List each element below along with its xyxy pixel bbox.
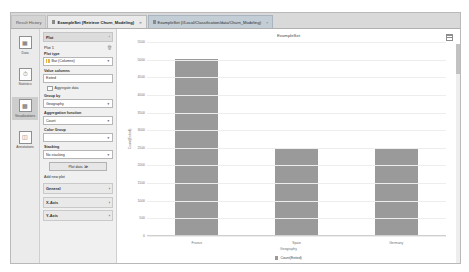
chevron-down-icon[interactable]: ▼ [107,136,110,140]
section-general[interactable]: General › [43,183,113,194]
aggregate-data-checkbox[interactable]: Aggregate data [47,86,113,92]
chevron-left-icon[interactable]: ‹ [109,35,110,39]
plot-section-header[interactable]: Plot ‹ [43,32,113,42]
chart-title: ExampleSet [117,33,460,38]
rail-label: Annotations [16,145,33,149]
y-axis-tick-label: 2000 [137,163,145,167]
chevron-down-icon[interactable]: ▼ [107,153,110,157]
trash-icon[interactable]: 🗑 [107,45,112,50]
bar-slot [147,42,247,236]
add-new-plot-link[interactable]: Add new plot [44,175,113,179]
y-axis-tick-label: 5000 [137,58,145,62]
table-icon [52,20,55,24]
tab-exampleset-retrieve[interactable]: ExampleSet (Retrieve Churn_Modeling) × [47,15,146,28]
tab-bar: Result History ExampleSet (Retrieve Chur… [11,13,460,29]
chart-panel: ExampleSet Count(Exited) 550050004500400… [117,29,460,264]
aggregation-function-select[interactable]: Count ▼ [43,116,113,125]
rail-label: Visualizations [15,114,35,118]
tab-label: ExampleSet (Retrieve Churn_Modeling) [57,20,134,25]
x-axis-tick-label: France [147,241,247,245]
aggregation-function-label: Aggregation function [44,111,113,115]
legend-swatch [275,256,278,259]
scrollbar-thumb[interactable] [456,44,460,74]
rail-label: Statistics [18,82,31,86]
section-label: X-Axis [46,200,58,205]
plot-area: Count(Exited) 55005000450040003500300025… [147,42,446,236]
gridline [147,60,446,61]
y-axis-tick-label: 500 [139,216,145,220]
gridline [147,236,446,237]
gridline [147,218,446,219]
plot-data-button[interactable]: Plot data ≫ [49,162,107,171]
aggregation-value: Count [46,119,56,123]
stacking-value: No stacking [46,153,65,157]
bar-spain[interactable] [275,149,318,236]
group-by-label: Group by [44,94,113,98]
gridline [147,42,446,43]
chevron-down-icon[interactable]: ▼ [107,119,110,123]
results-body: ▦ Data ⏱ Statistics ▩ Visualizations ◫ A… [11,29,460,264]
vertical-scrollbar[interactable] [456,44,460,264]
plot-name: Plot 1 [44,45,54,50]
x-axis-tick-label: Spain [247,241,347,245]
bars-layer [147,42,446,236]
gridline [147,95,446,96]
plot-type-select[interactable]: Bar (Columns) ▼ [43,57,113,66]
value-columns-value: Exited [46,76,56,80]
chevron-right-icon[interactable]: › [109,186,110,191]
legend-label: Count(Exited) [280,256,301,260]
chevron-right-icon[interactable]: › [109,200,110,205]
plot-section-title: Plot [46,35,53,40]
chevron-down-icon[interactable]: ▼ [107,59,110,63]
tab-exampleset-local[interactable]: ExampleSet (//Local/Classification/data/… [148,15,274,28]
section-x-axis[interactable]: X-Axis › [43,197,113,208]
gridline [147,77,446,78]
table-icon [153,20,156,24]
aggregate-data-label: Aggregate data [55,86,79,90]
group-by-value: Geography [46,102,64,106]
chart-icon: ▩ [19,99,32,112]
chevron-down-icon[interactable]: ▼ [107,102,110,106]
gridline [147,130,446,131]
value-columns-label: Value columns [44,69,113,73]
rail-item-visualizations[interactable]: ▩ Visualizations [12,97,38,120]
group-by-select[interactable]: Geography ▼ [43,99,113,108]
color-group-label: Color Group [44,128,113,132]
view-mode-rail: ▦ Data ⏱ Statistics ▩ Visualizations ◫ A… [11,29,40,264]
section-label: Y-Axis [46,213,58,218]
tab-result-history[interactable]: Result History [11,15,46,28]
stacking-select[interactable]: No stacking ▼ [43,150,113,159]
gridline [147,165,446,166]
grid-toggle-icon[interactable] [446,34,453,41]
y-axis-tick-label: 1000 [137,199,145,203]
bar-chart-icon [46,59,50,63]
bar-slot [346,42,446,236]
close-icon[interactable]: × [266,20,268,25]
plot-type-value: Bar (Columns) [52,59,75,63]
y-axis-tick-label: 1500 [137,181,145,185]
bar-germany[interactable] [375,148,418,236]
results-window: Result History ExampleSet (Retrieve Chur… [10,12,461,264]
rail-item-statistics[interactable]: ⏱ Statistics [12,66,38,89]
chart-legend: Count(Exited) [117,256,460,260]
gridline [147,148,446,149]
color-group-select[interactable]: ▼ [43,133,113,142]
rail-item-annotations[interactable]: ◫ Annotations [12,129,38,152]
plot-name-row: Plot 1 🗑 [43,45,113,50]
funnel-icon: ⏱ [19,68,32,81]
x-axis-tick-labels: FranceSpainGermany [147,241,446,245]
y-axis-tick-label: 4000 [137,93,145,97]
x-axis-title: Geography [117,247,460,251]
value-columns-field[interactable]: Exited [43,74,113,83]
gridline [147,113,446,114]
rail-item-data[interactable]: ▦ Data [12,34,38,57]
y-axis-tick-label: 3000 [137,128,145,132]
stacking-label: Stacking [44,145,113,149]
close-icon[interactable]: × [139,20,141,25]
y-axis-tick-label: 4500 [137,75,145,79]
checkbox-box [47,86,53,92]
section-y-axis[interactable]: Y-Axis › [43,210,113,221]
bar-slot [247,42,347,236]
chevron-right-icon[interactable]: › [109,213,110,218]
y-axis-tick-label: 3500 [137,111,145,115]
